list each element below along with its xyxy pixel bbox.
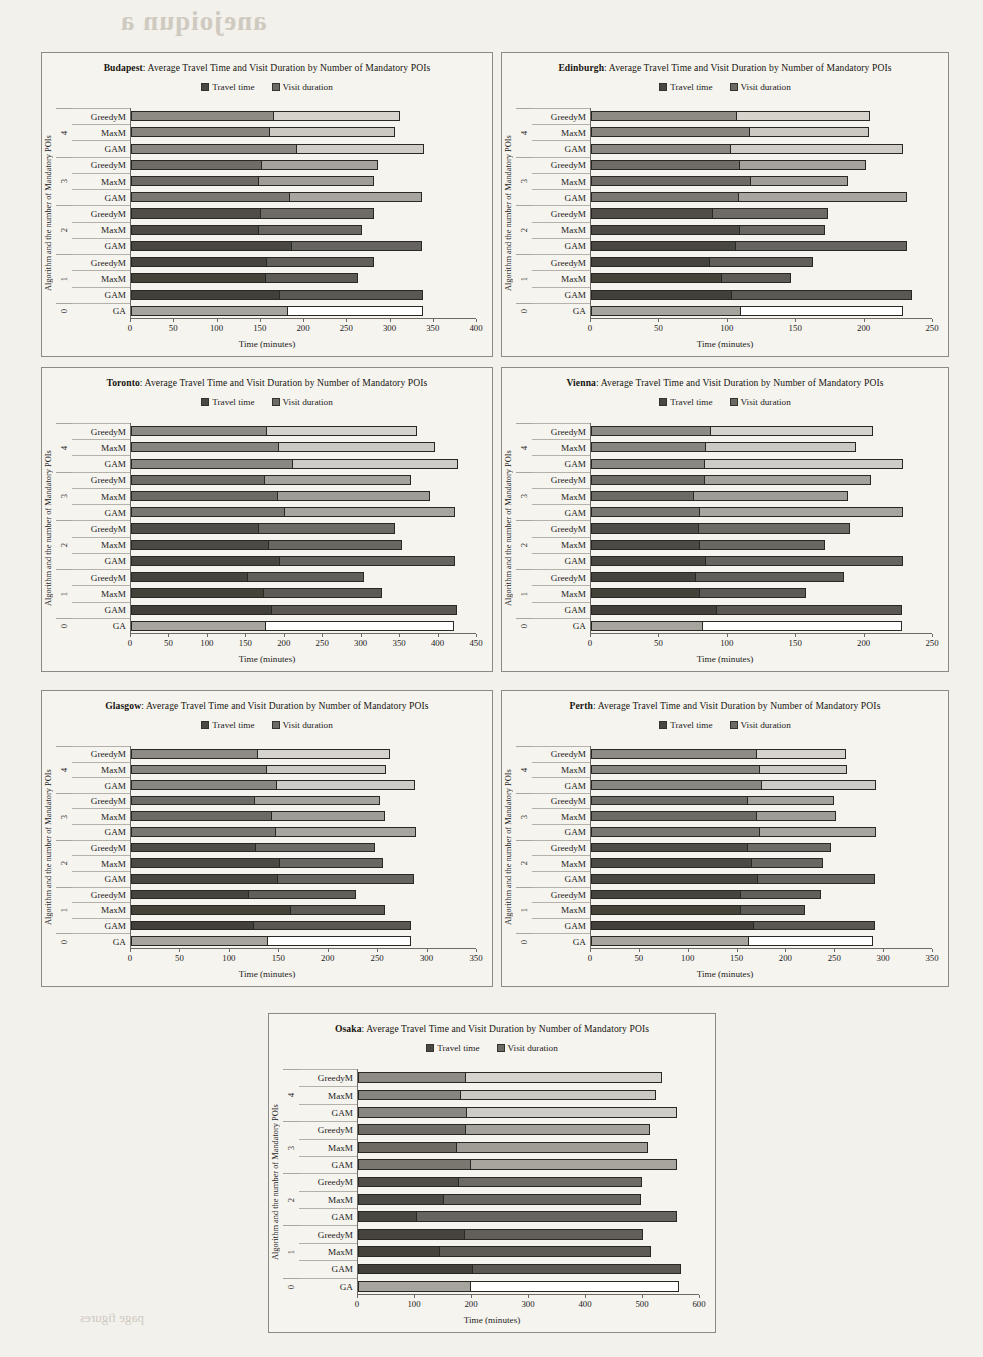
bar-segment-travel [131, 426, 267, 436]
bar-segment-visit [297, 144, 424, 154]
x-tick-mark [278, 949, 279, 952]
y-axis-title: Algorithm and the number of Mandatory PO… [271, 1069, 280, 1295]
x-tick-label-250: 250 [925, 323, 938, 333]
chart-legend: Travel timeVisit duration [502, 397, 948, 407]
bar-2 [591, 459, 903, 469]
x-tick-mark [284, 634, 285, 637]
x-tick-label-0: 0 [588, 638, 592, 648]
bar-segment-travel [131, 811, 272, 821]
y-axis-title: Algorithm and the number of Mandatory PO… [504, 746, 513, 949]
x-tick-label-400: 400 [469, 323, 482, 333]
bar-segment-travel [131, 491, 278, 501]
bar-0 [131, 749, 390, 759]
x-tick-mark [303, 319, 304, 322]
bar-segment-travel [591, 811, 757, 821]
bar-11 [131, 290, 423, 300]
bar-segment-visit [748, 843, 831, 853]
x-tick-mark [590, 949, 591, 952]
x-tick-mark [130, 319, 131, 322]
x-axis-title: Time (minutes) [42, 339, 492, 349]
bar-11 [131, 605, 457, 615]
bar-segment-visit [696, 572, 844, 582]
bar-9 [131, 257, 374, 267]
legend-swatch-travel-icon [659, 721, 667, 729]
x-tick-label-0: 0 [588, 323, 592, 333]
x-tick-mark [658, 634, 659, 637]
group-label-4: 4 [283, 1069, 299, 1121]
group-number-column: 43210 [56, 423, 72, 634]
x-tick-mark [727, 634, 728, 637]
category-label-ga-12: GA [532, 303, 590, 319]
bar-12 [131, 936, 411, 946]
bar-segment-visit [741, 905, 805, 915]
x-tick-label-50: 50 [175, 953, 184, 963]
category-label-greedym-6: GreedyM [532, 205, 590, 221]
bar-11 [591, 290, 912, 300]
x-tick-mark [834, 949, 835, 952]
group-label-0: 0 [56, 933, 72, 949]
x-tick-label-50: 50 [654, 638, 663, 648]
plot-axis [590, 423, 932, 634]
x-tick-label-200: 200 [857, 638, 870, 648]
group-label-text: 0 [59, 940, 69, 944]
x-tick-mark [932, 634, 933, 637]
category-label-column: GreedyMMaxMGAMGreedyMMaxMGAMGreedyMMaxMG… [299, 1069, 357, 1295]
chart-panel-edinburgh: Edinburgh: Average Travel Time and Visit… [501, 52, 949, 357]
bar-segment-travel [591, 605, 717, 615]
category-label-ga-12: GA [72, 933, 130, 949]
x-axis-title: Time (minutes) [42, 654, 492, 664]
category-label-gam-5: GAM [72, 824, 130, 840]
x-tick-label-400: 400 [431, 638, 444, 648]
category-label-maxm-10: MaxM [532, 585, 590, 601]
group-number-column: 43210 [516, 746, 532, 949]
group-label-3: 3 [283, 1121, 299, 1173]
group-label-3: 3 [56, 793, 72, 840]
chart-panel-glasgow: Glasgow: Average Travel Time and Visit D… [41, 690, 493, 987]
bar-segment-travel [131, 127, 270, 137]
category-label-greedym-0: GreedyM [532, 746, 590, 762]
group-label-text: 3 [519, 179, 529, 183]
chart-city-name: Budapest [104, 62, 143, 73]
bar-9 [358, 1229, 643, 1240]
legend-swatch-travel-icon [201, 721, 209, 729]
x-tick-mark [260, 319, 261, 322]
category-label-gam-11: GAM [532, 287, 590, 303]
x-tick-label-250: 250 [316, 638, 329, 648]
bar-segment-travel [131, 257, 267, 267]
bar-0 [131, 426, 417, 436]
bar-segment-travel [131, 523, 259, 533]
x-tick-label-350: 350 [925, 953, 938, 963]
group-label-text: 3 [59, 179, 69, 183]
bar-segment-travel [131, 160, 262, 170]
bar-segment-visit [259, 523, 395, 533]
legend-swatch-travel-icon [201, 398, 209, 406]
group-label-4: 4 [56, 108, 72, 157]
category-label-greedym-9: GreedyM [532, 569, 590, 585]
bar-0 [358, 1072, 662, 1083]
legend-label-visit: Visit duration [741, 82, 791, 92]
category-label-column: GreedyMMaxMGAMGreedyMMaxMGAMGreedyMMaxMG… [72, 746, 130, 949]
chart-title-suffix: : Average Travel Time and Visit Duration… [604, 62, 892, 73]
y-axis-title: Algorithm and the number of Mandatory PO… [44, 108, 53, 319]
legend-swatch-visit-icon [730, 721, 738, 729]
x-tick-mark [173, 319, 174, 322]
x-tick-label-500: 500 [635, 1299, 648, 1309]
legend-item-travel: Travel time [201, 82, 254, 92]
x-tick-mark [590, 634, 591, 637]
group-label-2: 2 [516, 840, 532, 887]
category-label-greedym-3: GreedyM [299, 1121, 357, 1138]
group-label-2: 2 [56, 520, 72, 569]
bar-7 [591, 540, 825, 550]
group-label-0: 0 [516, 933, 532, 949]
bar-0 [591, 426, 873, 436]
x-tick-mark [932, 319, 933, 322]
bar-segment-travel [131, 475, 265, 485]
bar-segment-visit [457, 1142, 647, 1153]
bar-6 [591, 523, 850, 533]
bar-4 [131, 491, 430, 501]
legend-label-travel: Travel time [212, 82, 254, 92]
bar-segment-visit [272, 811, 385, 821]
category-label-maxm-4: MaxM [72, 488, 130, 504]
category-label-ga-12: GA [532, 618, 590, 634]
bar-segment-travel [131, 507, 285, 517]
